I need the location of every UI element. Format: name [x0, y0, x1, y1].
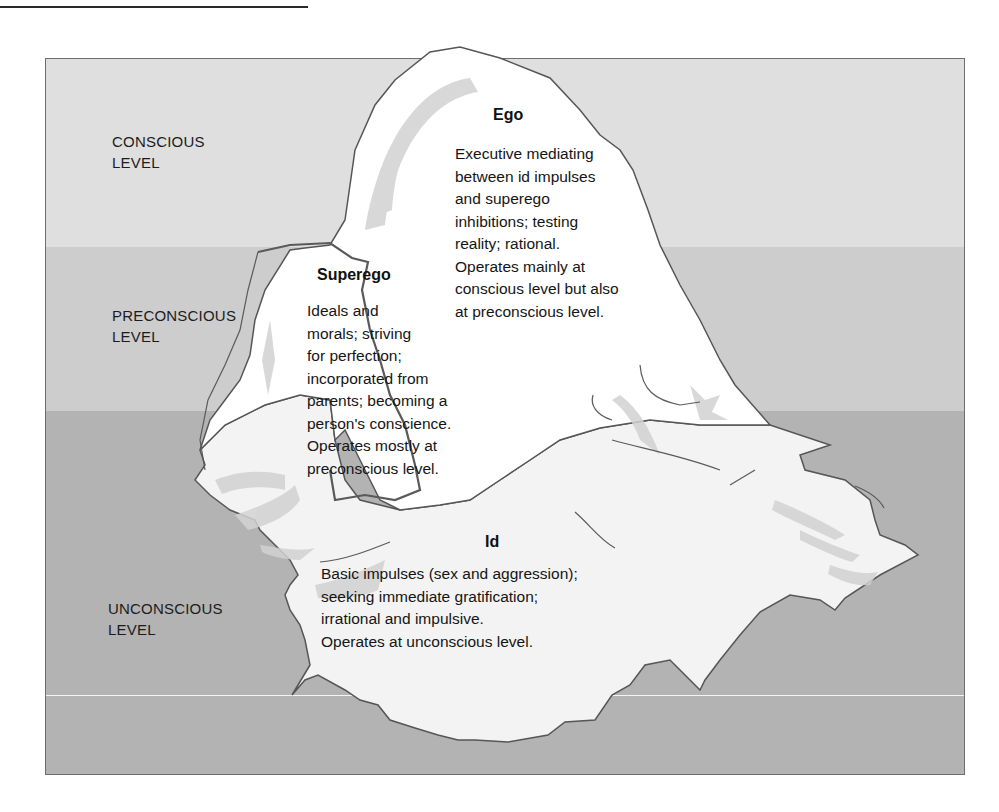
superego-title: Superego	[317, 266, 391, 284]
level-label-line: CONSCIOUS	[112, 131, 205, 152]
level-label-conscious: CONSCIOUS LEVEL	[112, 131, 205, 173]
id-description: Basic impulses (sex and aggression); see…	[321, 563, 578, 653]
ego-description: Executive mediating between id impulses …	[455, 143, 619, 323]
level-label-line: UNCONSCIOUS	[108, 598, 223, 619]
superego-description: Ideals and morals; striving for perfecti…	[307, 300, 451, 480]
level-label-unconscious: UNCONSCIOUS LEVEL	[108, 598, 223, 640]
id-title: Id	[485, 533, 499, 551]
level-label-line: LEVEL	[108, 619, 223, 640]
level-label-line: PRECONSCIOUS	[112, 305, 236, 326]
level-label-line: LEVEL	[112, 152, 205, 173]
ego-title: Ego	[493, 106, 523, 124]
level-label-preconscious: PRECONSCIOUS LEVEL	[112, 305, 236, 347]
level-label-line: LEVEL	[112, 326, 236, 347]
